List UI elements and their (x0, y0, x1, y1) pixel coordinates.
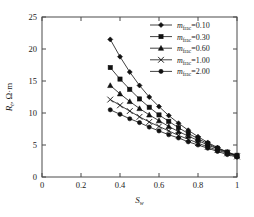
y-tick-label: 20 (29, 44, 38, 54)
marker-triangle (127, 99, 132, 104)
marker-diamond (118, 54, 123, 59)
marker-circle (118, 112, 122, 116)
legend-label: mfrac=0.10 (177, 21, 210, 31)
y-tick-label: 5 (33, 140, 37, 150)
marker-diamond (159, 23, 164, 28)
marker-square (128, 87, 132, 91)
marker-circle (176, 136, 180, 140)
x-tick-label: 0.4 (115, 180, 126, 190)
marker-triangle (147, 112, 152, 117)
series-1 (108, 65, 239, 157)
marker-square (157, 113, 161, 117)
series-line (110, 39, 237, 155)
x-tick-label: 0 (40, 180, 44, 190)
y-tick-label: 10 (29, 108, 38, 118)
marker-square (147, 105, 151, 109)
x-axis-title: Sw (135, 195, 144, 206)
x-tick-label: 0.6 (154, 180, 165, 190)
legend-item-1: mfrac=0.30 (150, 33, 210, 43)
y-axis-title: Rt, Ω·m (4, 83, 15, 112)
series-0 (108, 37, 240, 158)
marker-diamond (108, 37, 113, 42)
marker-triangle (137, 106, 142, 111)
marker-square (137, 97, 141, 101)
x-tick-label: 1 (235, 180, 239, 190)
legend-label: mfrac=1.00 (177, 56, 210, 66)
marker-circle (108, 108, 112, 112)
resistivity-vs-water-saturation-chart: 00.20.40.60.810510152025 mfrac=0.10mfrac… (0, 0, 254, 217)
marker-square (118, 77, 122, 81)
marker-triangle (166, 124, 171, 129)
legend-item-0: mfrac=0.10 (150, 21, 210, 31)
x-tick-label: 0.2 (76, 180, 87, 190)
marker-square (167, 119, 171, 123)
marker-circle (128, 117, 132, 121)
marker-circle (235, 155, 239, 159)
legend-label: mfrac=2.00 (177, 67, 210, 77)
marker-circle (147, 125, 151, 129)
marker-circle (196, 143, 200, 147)
marker-circle (159, 69, 163, 73)
marker-circle (157, 129, 161, 133)
legend-label: mfrac=0.60 (177, 44, 210, 54)
chart-legend: mfrac=0.10mfrac=0.30mfrac=0.60mfrac=1.00… (150, 21, 210, 77)
marker-circle (225, 153, 229, 157)
marker-square (159, 35, 163, 39)
data-curves (107, 37, 240, 160)
y-tick-label: 15 (29, 76, 38, 86)
marker-circle (215, 149, 219, 153)
chart-figure: 00.20.40.60.810510152025 mfrac=0.10mfrac… (0, 0, 254, 217)
marker-circle (167, 133, 171, 137)
marker-square (108, 65, 112, 69)
marker-circle (206, 146, 210, 150)
y-tick-label: 25 (29, 12, 38, 22)
legend-label: mfrac=0.30 (177, 33, 210, 43)
marker-circle (137, 121, 141, 125)
legend-item-2: mfrac=0.60 (150, 44, 210, 54)
marker-triangle (156, 118, 161, 123)
legend-item-3: mfrac=1.00 (150, 56, 210, 66)
x-tick-label: 0.8 (193, 180, 204, 190)
marker-circle (186, 140, 190, 144)
marker-triangle (108, 83, 113, 88)
y-tick-label: 0 (33, 172, 37, 182)
legend-item-4: mfrac=2.00 (150, 67, 210, 77)
